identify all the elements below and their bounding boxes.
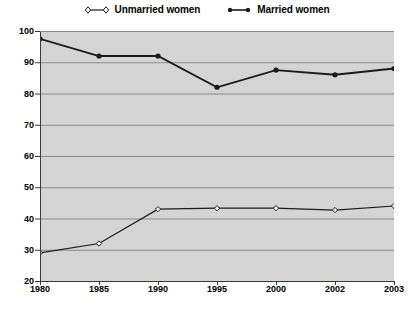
line-chart: Unmarried women Married women 2030405060… xyxy=(0,0,413,310)
axes-overlay xyxy=(0,0,413,310)
